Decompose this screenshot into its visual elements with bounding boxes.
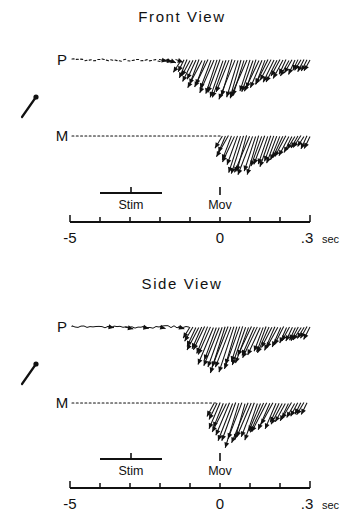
velocity-vector-head (127, 325, 133, 330)
baseline-dot (102, 59, 104, 60)
axis-tick-label: -5 (63, 495, 76, 512)
panel-side: Side ViewPMStimMov-50.3sec (22, 275, 340, 512)
event-stim-side: Stim (100, 453, 162, 478)
vector-burst-P (173, 59, 310, 99)
baseline-dot (115, 60, 117, 61)
figure-canvas: Front ViewPMStimMov-50.3secSide ViewPMSt… (0, 0, 364, 517)
channel-label-front-P: P (57, 51, 67, 68)
velocity-vector-head (212, 91, 217, 97)
velocity-vector-head (266, 157, 271, 163)
velocity-vector-head (235, 357, 240, 363)
velocity-vector-head (293, 334, 298, 340)
axis-tick-label: -5 (63, 229, 76, 246)
panel-front: Front ViewPMStimMov-50.3sec (22, 8, 340, 246)
event-label-mov: Mov (208, 464, 232, 478)
scale-vector-shaft (22, 97, 36, 117)
baseline-P (72, 324, 189, 330)
axis-tick-label: .3 (301, 495, 314, 512)
axis-unit-label: sec (322, 233, 340, 245)
velocity-vector-head (293, 142, 298, 148)
velocity-vector-head (210, 367, 215, 373)
channel-label-side-M: M (56, 394, 69, 411)
baseline-P (72, 58, 183, 64)
baseline-dot (145, 60, 147, 61)
axis-unit-label: sec (322, 499, 340, 511)
event-mov-side: Mov (208, 453, 232, 478)
scale-vector-dot (33, 361, 38, 366)
axis-tick-label: 0 (216, 229, 224, 246)
axis-tick-label: 0 (216, 495, 224, 512)
velocity-vector-head (253, 158, 258, 164)
baseline-dot (106, 60, 108, 61)
velocity-vector-head (173, 66, 178, 72)
velocity-vector-head (218, 366, 223, 372)
event-stim-front: Stim (100, 187, 162, 212)
velocity-vector-head (244, 434, 249, 440)
scale-vector-dot (33, 94, 38, 99)
panel-title-side: Side View (142, 275, 223, 292)
event-label-mov: Mov (208, 198, 232, 212)
event-label-stim: Stim (119, 464, 144, 478)
channel-label-side-P: P (57, 318, 67, 335)
time-axis-side: -50.3sec (63, 481, 339, 512)
time-axis-front: -50.3sec (63, 215, 339, 246)
velocity-vector-head (224, 363, 229, 369)
event-label-stim: Stim (119, 198, 144, 212)
scale-vector-shaft (22, 364, 36, 384)
axis-tick-label: .3 (301, 229, 314, 246)
panel-title-front: Front View (138, 8, 225, 25)
scale-vector-front (22, 94, 39, 117)
velocity-vector-head (224, 442, 229, 448)
velocity-vector-head (207, 361, 212, 367)
scale-vector-side (22, 361, 39, 384)
velocity-vector-head (227, 159, 232, 165)
vector-burst-M (215, 135, 310, 174)
vector-burst-P (183, 326, 310, 373)
event-mov-front: Mov (208, 187, 232, 212)
velocity-vector-head (221, 435, 226, 441)
vector-burst-M (207, 402, 307, 447)
velocity-vector-head (259, 161, 264, 167)
channel-label-front-M: M (56, 127, 69, 144)
